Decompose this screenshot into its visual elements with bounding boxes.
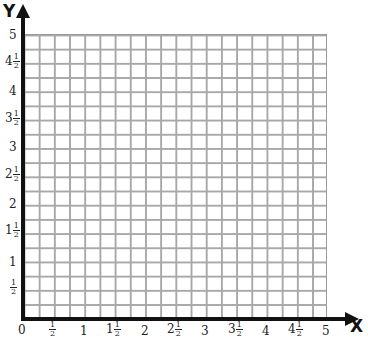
x-tick-label: 1 — [80, 325, 88, 337]
tick-whole: 4 — [5, 54, 13, 68]
tick-whole: 4 — [262, 324, 270, 338]
tick-whole: 4 — [9, 84, 17, 98]
tick-whole: 1 — [9, 255, 17, 269]
tick-fraction: 12 — [13, 166, 20, 183]
y-tick-label: 2 — [9, 198, 17, 210]
tick-fraction: 12 — [13, 53, 20, 70]
tick-whole: 4 — [288, 322, 296, 336]
tick-whole: 2 — [9, 197, 17, 211]
tick-fraction: 12 — [114, 321, 121, 338]
tick-fraction: 12 — [10, 279, 17, 296]
tick-whole: 3 — [5, 111, 13, 125]
y-tick-label: 5 — [9, 29, 17, 41]
y-tick-label: 12 — [10, 279, 17, 296]
tick-whole: 1 — [106, 322, 114, 336]
y-axis-label: Y — [3, 1, 15, 21]
y-tick-label: 212 — [5, 166, 20, 183]
y-tick-label: 112 — [5, 222, 20, 239]
origin-label: 0 — [18, 324, 26, 336]
y-tick-label: 1 — [9, 256, 17, 268]
graph-paper-grid — [23, 34, 327, 318]
x-tick-label: 12 — [49, 321, 56, 338]
x-tick-label: 2 — [141, 325, 149, 337]
x-tick-label: 312 — [228, 321, 243, 338]
tick-whole: 3 — [201, 324, 209, 338]
tick-fraction: 12 — [13, 222, 20, 239]
tick-fraction: 12 — [236, 321, 243, 338]
tick-fraction: 12 — [13, 110, 20, 127]
x-tick-label: 112 — [106, 321, 121, 338]
x-tick-label: 5 — [322, 325, 330, 337]
tick-whole: 2 — [167, 322, 175, 336]
x-tick-label: 212 — [167, 321, 182, 338]
tick-whole: 2 — [5, 167, 13, 181]
tick-whole: 3 — [228, 322, 236, 336]
coordinate-grid-diagram: Y X 0 1211122212331244125 54124312321221… — [0, 0, 368, 344]
x-axis-label: X — [350, 316, 363, 336]
tick-whole: 1 — [5, 223, 13, 237]
tick-whole: 2 — [141, 324, 149, 338]
tick-whole: 1 — [80, 324, 88, 338]
y-tick-label: 312 — [5, 110, 20, 127]
tick-fraction: 12 — [175, 321, 182, 338]
x-tick-label: 412 — [288, 321, 303, 338]
y-axis-line — [21, 14, 25, 320]
y-tick-label: 412 — [5, 53, 20, 70]
y-axis-arrow-icon — [16, 4, 30, 18]
tick-fraction: 12 — [296, 321, 303, 338]
y-tick-label: 3 — [9, 141, 17, 153]
tick-whole: 5 — [9, 28, 17, 42]
y-tick-label: 4 — [9, 85, 17, 97]
x-tick-label: 4 — [262, 325, 270, 337]
x-tick-label: 3 — [201, 325, 209, 337]
tick-whole: 5 — [322, 324, 330, 338]
tick-whole: 3 — [9, 140, 17, 154]
tick-fraction: 12 — [49, 321, 56, 338]
